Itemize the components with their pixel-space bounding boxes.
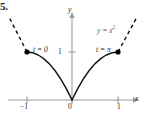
parametric-parabola-figure: 5. y x −1 0 1 1 t = 0 t = π y = x2 [0,0,145,136]
x-tick-label-one: 1 [117,103,121,111]
equation-base: y = x [97,26,112,35]
equation-exponent: 2 [112,24,115,30]
y-axis-label: y [68,6,72,14]
annotation-equation: y = x2 [97,25,115,34]
x-axis-label: x [135,95,139,103]
plot-canvas [0,0,145,136]
parabola-dashed-extension-right [118,17,137,52]
endpoint-marker-t-end [115,49,120,54]
x-tick-label-neg-one: −1 [20,103,28,111]
y-tick-label-one: 1 [58,48,62,56]
origin-tick-label: 0 [68,103,72,111]
annotation-t-end: t = π [96,46,111,54]
parabola-dashed-extension-left [9,17,27,52]
annotation-t-start: t = 0 [33,46,48,54]
endpoint-marker-t-start [24,49,29,54]
